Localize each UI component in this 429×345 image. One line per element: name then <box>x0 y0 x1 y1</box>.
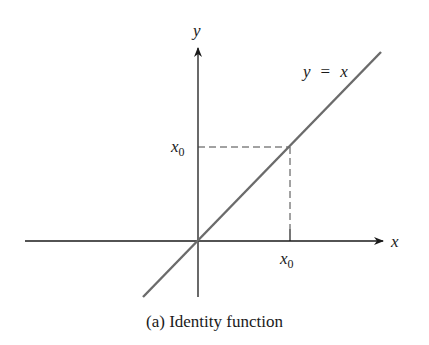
y-axis-label: y <box>191 21 201 40</box>
x-axis-label: x <box>390 232 399 251</box>
line-equation-label: y = x <box>301 62 348 81</box>
identity-line <box>143 52 381 297</box>
y-tick-x0-label: x0 <box>170 137 185 159</box>
identity-function-diagram: y x y = x x0 x0 <box>0 0 429 345</box>
x-tick-x0-label: x0 <box>279 249 294 271</box>
figure-caption: (a) Identity function <box>0 312 429 332</box>
